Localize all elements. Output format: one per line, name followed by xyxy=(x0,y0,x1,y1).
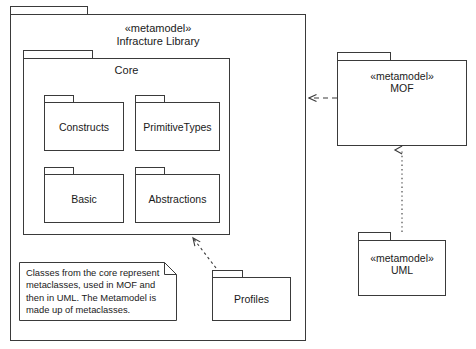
package-mof[interactable]: «metamodel» MOF xyxy=(337,52,467,146)
package-body-profiles: Profiles xyxy=(212,277,291,321)
package-label-primitive-types: PrimitiveTypes xyxy=(136,120,219,132)
package-body-basic: Basic xyxy=(44,174,124,223)
package-constructs[interactable]: Constructs xyxy=(44,95,124,151)
package-label-constructs: Constructs xyxy=(45,120,123,132)
package-abstractions[interactable]: Abstractions xyxy=(135,167,220,223)
package-primitive-types[interactable]: PrimitiveTypes xyxy=(135,95,220,151)
package-body-uml: «metamodel» UML xyxy=(358,240,446,296)
package-label-uml: «metamodel» UML xyxy=(359,252,445,277)
package-label-profiles: Profiles xyxy=(213,293,290,305)
package-profiles[interactable]: Profiles xyxy=(212,270,291,321)
note-text: Classes from the core represent metaclas… xyxy=(26,267,171,317)
package-body-mof: «metamodel» MOF xyxy=(337,60,467,146)
note-comment[interactable]: Classes from the core represent metaclas… xyxy=(19,262,177,321)
package-body-abstractions: Abstractions xyxy=(135,174,220,223)
package-uml[interactable]: «metamodel» UML xyxy=(358,232,446,296)
package-label-core: Core xyxy=(24,64,229,77)
package-label-abstractions: Abstractions xyxy=(136,192,219,204)
package-label-infrastructure-library: «metamodel» Infracture Library xyxy=(11,22,305,48)
package-label-mof: «metamodel» MOF xyxy=(338,70,466,95)
package-body-primitive-types: PrimitiveTypes xyxy=(135,102,220,151)
package-basic[interactable]: Basic xyxy=(44,167,124,223)
uml-package-diagram: «metamodel» Infracture Library Core Cons… xyxy=(0,0,476,349)
package-body-constructs: Constructs xyxy=(44,102,124,151)
package-label-basic: Basic xyxy=(45,192,123,204)
